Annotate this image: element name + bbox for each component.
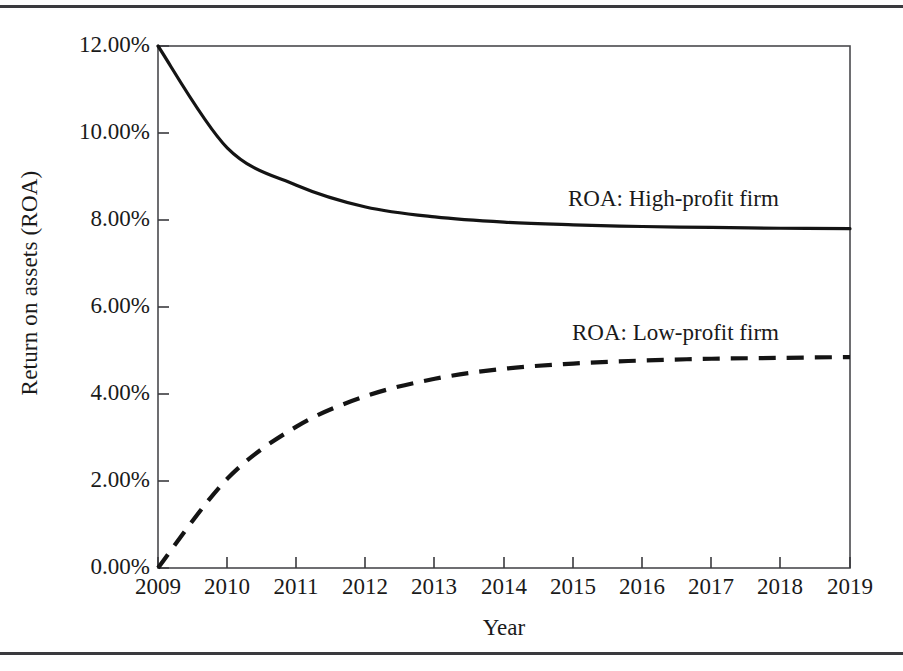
xtick-label-2014: 2014 xyxy=(464,574,544,600)
x-axis-title: Year xyxy=(158,615,850,641)
xtick-label-2019: 2019 xyxy=(810,574,890,600)
xtick-label-2009: 2009 xyxy=(118,574,198,600)
x-axis-ticks xyxy=(158,557,850,568)
series-line-low-profit xyxy=(158,357,850,568)
y-axis-title: Return on assets (ROA) xyxy=(17,103,43,463)
xtick-label-2017: 2017 xyxy=(671,574,751,600)
ytick-label-2: 2.00% xyxy=(10,467,150,493)
roa-chart-figure: 12.00% 10.00% 8.00% 6.00% 4.00% 2.00% 0.… xyxy=(0,8,903,652)
xtick-label-2012: 2012 xyxy=(325,574,405,600)
ytick-label-12: 12.00% xyxy=(10,32,150,58)
series-label-low-profit: ROA: Low-profit firm xyxy=(572,320,779,346)
xtick-label-2013: 2013 xyxy=(394,574,474,600)
series-label-high-profit: ROA: High-profit firm xyxy=(568,186,779,212)
xtick-label-2011: 2011 xyxy=(256,574,336,600)
xtick-label-2010: 2010 xyxy=(187,574,267,600)
page-rule-bottom xyxy=(0,652,903,655)
xtick-label-2016: 2016 xyxy=(602,574,682,600)
xtick-label-2015: 2015 xyxy=(533,574,613,600)
plot-area-frame xyxy=(158,46,850,568)
xtick-label-2018: 2018 xyxy=(740,574,820,600)
y-axis-ticks xyxy=(158,46,169,568)
